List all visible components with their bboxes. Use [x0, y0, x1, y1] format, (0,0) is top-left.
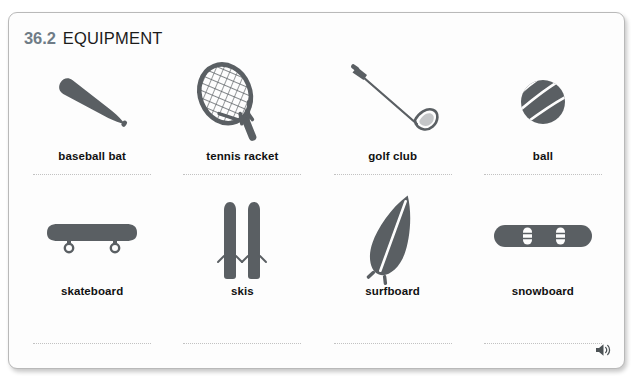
card-header: 36.2 EQUIPMENT — [24, 29, 163, 48]
vocab-label: baseball bat — [58, 150, 126, 163]
vocab-label: skateboard — [61, 285, 123, 298]
vocab-label: ball — [533, 150, 553, 163]
skis-icon — [172, 189, 312, 284]
vocab-item-golf-club[interactable]: golf club — [318, 55, 468, 175]
section-number: 36.2 — [24, 29, 56, 48]
vocabulary-grid: baseball bat — [17, 55, 618, 297]
vocab-item-skateboard[interactable]: skateboard — [17, 189, 167, 298]
golf-club-icon — [323, 55, 463, 149]
vocab-label: skis — [231, 285, 254, 298]
vocab-item-snowboard[interactable]: snowboard — [468, 189, 618, 298]
vocab-label: tennis racket — [206, 150, 278, 163]
vocab-label: golf club — [368, 150, 417, 163]
baseball-bat-icon — [22, 55, 162, 149]
vocab-label: snowboard — [512, 285, 574, 298]
skateboard-icon — [22, 189, 162, 284]
item-divider — [318, 343, 468, 344]
equipment-card: 36.2 EQUIPMENT baseball bat — [8, 12, 625, 369]
vocab-item-surfboard[interactable]: surfboard — [318, 189, 468, 298]
item-divider — [167, 343, 317, 344]
vocab-item-tennis-racket[interactable]: tennis racket — [167, 55, 317, 175]
speaker-icon[interactable] — [592, 340, 614, 360]
screenshot-root: 36.2 EQUIPMENT baseball bat — [0, 0, 640, 387]
bottom-divider-row — [17, 343, 618, 344]
vocab-item-baseball-bat[interactable]: baseball bat — [17, 55, 167, 175]
item-divider — [334, 174, 452, 175]
surfboard-icon — [323, 189, 463, 284]
item-divider — [33, 174, 151, 175]
item-divider — [17, 343, 167, 344]
page-title: EQUIPMENT — [63, 29, 163, 48]
vocab-item-ball[interactable]: ball — [468, 55, 618, 175]
item-divider — [183, 174, 301, 175]
ball-icon — [473, 55, 613, 149]
snowboard-icon — [473, 189, 613, 284]
vocabulary-row: baseball bat — [17, 55, 618, 175]
vocab-label: surfboard — [365, 285, 420, 298]
vocab-item-skis[interactable]: skis — [167, 189, 317, 298]
tennis-racket-icon — [172, 55, 312, 149]
vocabulary-row: skateboard — [17, 189, 618, 298]
item-divider — [484, 174, 602, 175]
